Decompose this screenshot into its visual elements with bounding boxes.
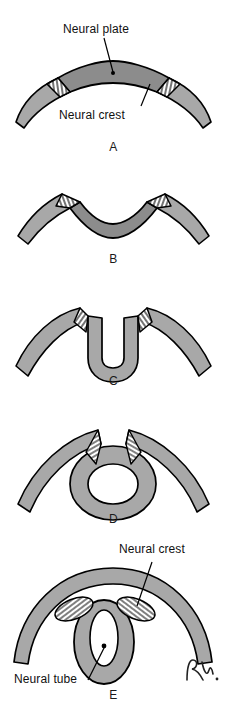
label-neural-crest-a: Neural crest — [59, 108, 125, 122]
panel-b: B — [0, 168, 227, 280]
label-neural-tube: Neural tube — [14, 672, 77, 686]
stage-letter-e: E — [0, 688, 227, 702]
ectoderm-left — [16, 308, 84, 376]
neural-groove — [88, 316, 138, 382]
stage-letter-c: C — [0, 374, 227, 388]
artist-signature — [181, 650, 223, 688]
label-neural-crest-e: Neural crest — [119, 542, 185, 556]
panel-a: Neural plate Neural crest A — [0, 0, 227, 160]
panel-c: C — [0, 288, 227, 398]
ectoderm-right — [143, 308, 211, 376]
neurulation-figure: Neural plate Neural crest A — [0, 0, 227, 710]
neural-plate-shape — [70, 202, 157, 238]
neural-tube-closing — [70, 446, 156, 520]
leader-dot-neural-tube — [102, 644, 107, 649]
neural-plate-shape — [58, 61, 169, 92]
leader-dot-neural-plate — [111, 71, 115, 75]
stage-letter-d: D — [0, 512, 227, 526]
stage-letter-a: A — [0, 140, 227, 154]
panel-d: D — [0, 408, 227, 530]
panel-e: Neural crest Neural tube E — [0, 532, 227, 710]
label-neural-plate: Neural plate — [63, 22, 129, 36]
neural-tube-lumen — [90, 610, 118, 666]
stage-letter-b: B — [0, 252, 227, 266]
